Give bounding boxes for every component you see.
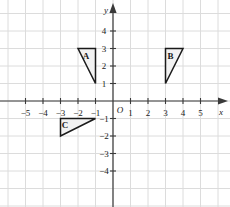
cartesian-plane: [0, 0, 230, 207]
x-tick-label: 4: [181, 109, 186, 118]
x-axis-arrowhead: [218, 97, 228, 104]
x-tick-label: −2: [73, 109, 83, 118]
shape-label-b: B: [167, 52, 173, 61]
x-tick-label: −5: [21, 109, 31, 118]
x-tick-label: 5: [198, 109, 203, 118]
x-tick-label: 2: [146, 109, 151, 118]
y-tick-label: −3: [99, 149, 109, 158]
y-tick-label: −4: [99, 167, 109, 176]
y-tick-label: 1: [102, 79, 107, 88]
x-tick-label: 1: [128, 109, 133, 118]
coordinate-grid-figure: −5−4−3−2−112345−4−3−2−11234OxyABC: [0, 0, 230, 207]
y-axis-label: y: [104, 6, 108, 15]
origin-label: O: [117, 106, 124, 115]
y-tick-label: −2: [99, 132, 109, 141]
x-tick-label: −3: [56, 109, 66, 118]
shape-label-c: C: [62, 120, 69, 129]
y-tick-label: 2: [102, 62, 107, 71]
y-axis-arrowhead: [109, 3, 116, 13]
y-tick-label: 3: [102, 44, 107, 53]
y-tick-label: 4: [102, 27, 107, 36]
x-tick-label: 3: [163, 109, 168, 118]
x-tick-label: −4: [38, 109, 48, 118]
axes: [0, 3, 228, 207]
y-tick-label: −1: [99, 114, 109, 123]
x-axis-label: x: [219, 108, 223, 117]
shapes-layer: [61, 49, 184, 137]
shape-label-a: A: [83, 52, 90, 61]
